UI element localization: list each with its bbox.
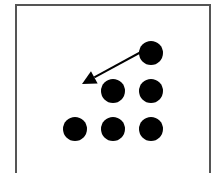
dot-r3-c3 [139, 117, 163, 141]
dot-r3-c2 [101, 117, 125, 141]
arrow-shaft [94, 52, 141, 77]
dot-r2-c2 [101, 79, 125, 103]
dot-diagram [0, 0, 221, 173]
dot-r2-c3 [139, 79, 163, 103]
dot-r1-c3 [139, 41, 163, 65]
dot-r3-c1 [63, 117, 87, 141]
